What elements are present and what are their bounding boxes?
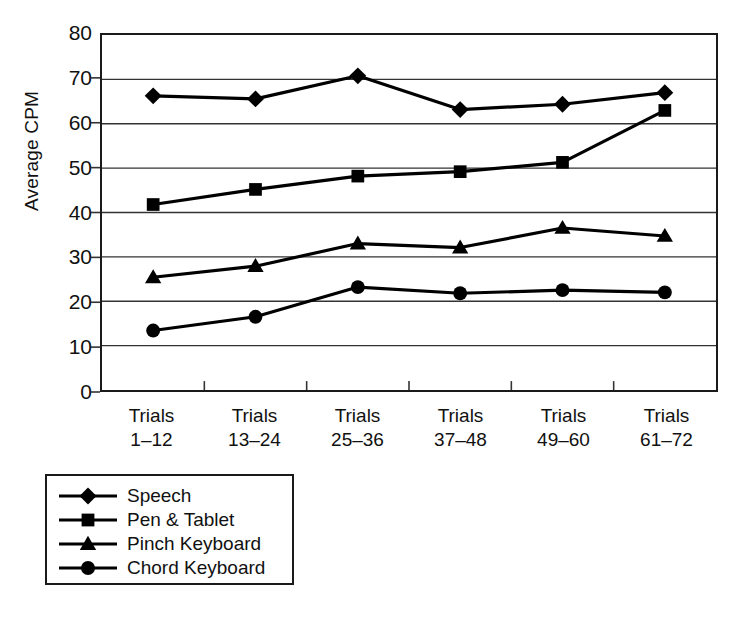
x-tick-label-line2: 1–12 bbox=[100, 428, 203, 452]
y-axis-tick-label: 30 bbox=[48, 246, 92, 267]
series-chord-keyboard bbox=[146, 280, 672, 337]
x-tick-label-line2: 61–72 bbox=[615, 428, 718, 452]
x-tick-label-line1: Trials bbox=[306, 404, 409, 428]
legend-label: Speech bbox=[127, 485, 191, 507]
legend-marker-triangle-icon bbox=[57, 533, 119, 555]
x-tick-label-line1: Trials bbox=[512, 404, 615, 428]
y-axis-tick-label: 70 bbox=[48, 67, 92, 88]
legend-label: Chord Keyboard bbox=[127, 557, 265, 579]
series-pinch-keyboard bbox=[145, 220, 673, 283]
data-point-circle bbox=[556, 283, 570, 297]
legend-item-pinch-keyboard[interactable]: Pinch Keyboard bbox=[47, 532, 292, 556]
data-point-square bbox=[147, 198, 160, 211]
x-tick-label-line2: 13–24 bbox=[203, 428, 306, 452]
legend-item-chord-keyboard[interactable]: Chord Keyboard bbox=[47, 556, 292, 580]
series-speech bbox=[145, 67, 674, 118]
data-point-diamond bbox=[452, 101, 469, 118]
data-point-square bbox=[82, 514, 95, 527]
data-point-diamond bbox=[247, 90, 264, 107]
data-point-circle bbox=[453, 286, 467, 300]
data-point-square bbox=[556, 156, 569, 169]
y-axis-title: Average CPM bbox=[21, 71, 43, 231]
x-tick-label-line1: Trials bbox=[615, 404, 718, 428]
series-line bbox=[153, 110, 665, 204]
x-tick-label-line2: 25–36 bbox=[306, 428, 409, 452]
x-tick-label-line2: 49–60 bbox=[512, 428, 615, 452]
data-point-circle bbox=[146, 324, 160, 338]
x-axis-tick-label: Trials1–12 bbox=[100, 404, 203, 452]
legend-label: Pen & Tablet bbox=[127, 509, 234, 531]
data-point-square bbox=[351, 170, 364, 183]
data-point-diamond bbox=[80, 488, 97, 505]
y-axis-tick-label: 0 bbox=[48, 381, 92, 402]
data-point-square bbox=[249, 183, 262, 196]
x-axis-tick-label: Trials61–72 bbox=[615, 404, 718, 452]
legend-marker-circle-icon bbox=[57, 557, 119, 579]
y-axis-tick-label: 80 bbox=[48, 22, 92, 43]
series-pen-tablet bbox=[147, 104, 671, 211]
data-series-layer bbox=[102, 35, 716, 390]
x-tick-label-line1: Trials bbox=[100, 404, 203, 428]
data-point-circle bbox=[658, 285, 672, 299]
series-line bbox=[153, 76, 665, 110]
y-axis-tick-label: 60 bbox=[48, 112, 92, 133]
x-axis-tick-label: Trials49–60 bbox=[512, 404, 615, 452]
legend-item-speech[interactable]: Speech bbox=[47, 484, 292, 508]
legend-item-pen-tablet[interactable]: Pen & Tablet bbox=[47, 508, 292, 532]
chart-page: Average CPM 80706050403020100 Trials1–12… bbox=[0, 0, 746, 622]
data-point-circle bbox=[81, 561, 95, 575]
y-axis-tick-label: 50 bbox=[48, 157, 92, 178]
data-point-square bbox=[658, 104, 671, 117]
legend-marker-diamond-icon bbox=[57, 485, 119, 507]
data-point-square bbox=[454, 165, 467, 178]
data-point-diamond bbox=[656, 84, 673, 101]
chart-legend: SpeechPen & TabletPinch KeyboardChord Ke… bbox=[45, 474, 294, 585]
x-tick-label-line1: Trials bbox=[203, 404, 306, 428]
x-tick-label-line1: Trials bbox=[409, 404, 512, 428]
legend-label: Pinch Keyboard bbox=[127, 533, 261, 555]
x-tick-label-line2: 37–48 bbox=[409, 428, 512, 452]
data-point-circle bbox=[351, 280, 365, 294]
data-point-diamond bbox=[349, 67, 366, 84]
y-axis-tick-label: 20 bbox=[48, 291, 92, 312]
x-axis-tick-label: Trials37–48 bbox=[409, 404, 512, 452]
y-axis-tick-label: 40 bbox=[48, 202, 92, 223]
data-point-diamond bbox=[145, 87, 162, 104]
x-axis-tick-label: Trials25–36 bbox=[306, 404, 409, 452]
plot-area bbox=[100, 33, 718, 392]
data-point-diamond bbox=[554, 96, 571, 113]
series-line bbox=[153, 228, 665, 277]
series-line bbox=[153, 287, 665, 330]
y-axis-tick-label: 10 bbox=[48, 336, 92, 357]
legend-marker-square-icon bbox=[57, 509, 119, 531]
x-axis-tick-labels: Trials1–12Trials13–24Trials25–36Trials37… bbox=[100, 404, 718, 464]
data-point-circle bbox=[249, 310, 263, 324]
x-axis-tick-label: Trials13–24 bbox=[203, 404, 306, 452]
